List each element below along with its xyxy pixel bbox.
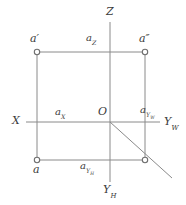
coordinate-label-ax: aX — [55, 107, 65, 119]
origin-label-o: O — [98, 106, 107, 117]
point-marker-a-front — [34, 49, 39, 54]
axis-label-x: X — [12, 115, 20, 126]
point-label-a-top: a — [33, 164, 40, 175]
point-label-a-side: a″ — [139, 33, 150, 44]
diagonal-bisector — [110, 122, 172, 178]
axis-label-yw: YW — [164, 116, 178, 130]
axis-label-z: Z — [106, 6, 114, 17]
point-marker-a-top — [34, 157, 39, 162]
axis-label-yh: YH — [103, 184, 116, 198]
coordinate-label-az: aZ — [86, 33, 96, 45]
point-marker-a-side — [142, 49, 147, 54]
coordinate-label-ayh: aYH — [80, 161, 94, 176]
projection-diagram: Z X YW YH O a′ a″ a aZ aX aYW aYH — [0, 0, 186, 205]
point-label-a-front: a′ — [30, 33, 39, 44]
point-marker-a-corner — [142, 157, 147, 162]
coordinate-label-ayw: aYW — [140, 105, 155, 120]
